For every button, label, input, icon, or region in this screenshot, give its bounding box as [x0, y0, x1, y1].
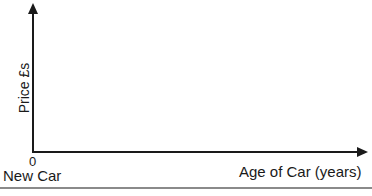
origin-label: New Car: [3, 167, 61, 184]
y-axis-arrow-icon: [28, 3, 38, 14]
y-axis-label: Price £s: [16, 58, 32, 118]
divider: [0, 187, 372, 189]
x-axis-label: Age of Car (years): [239, 163, 362, 180]
x-axis-arrow-icon: [357, 147, 368, 157]
